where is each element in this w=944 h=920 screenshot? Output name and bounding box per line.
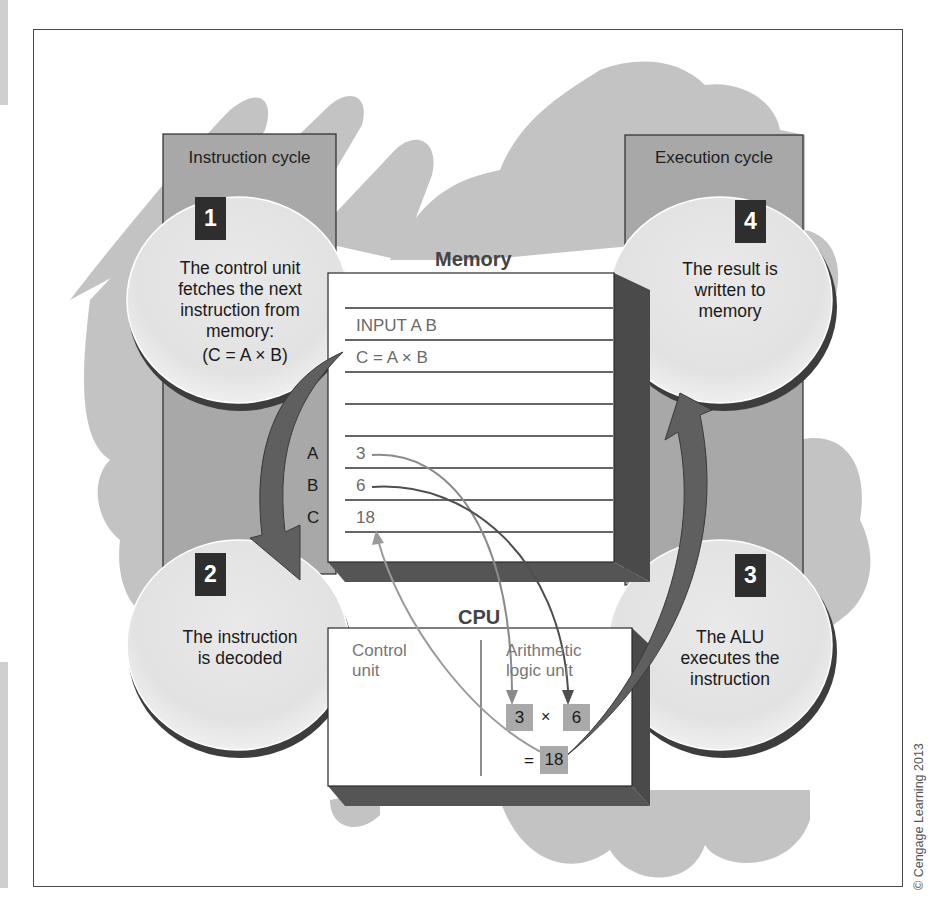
step-badge-4: 4 [735, 200, 766, 243]
instruction-cycle-label: Instruction cycle [163, 148, 336, 168]
execution-cycle-label: Execution cycle [625, 148, 803, 168]
step-4-description: The result is written to memory [640, 259, 820, 322]
step-3-description: The ALU executes the instruction [640, 627, 820, 690]
alu-operator: × [541, 708, 550, 726]
cpu-label: CPU [458, 606, 500, 629]
memory-label: Memory [435, 248, 512, 271]
address-label-a: A [307, 444, 318, 464]
memory-row-2: C = A × B [356, 348, 428, 368]
step-badge-2: 2 [195, 553, 226, 596]
alu-operand-b: 6 [563, 704, 590, 731]
copyright-notice: © Cengage Learning 2013 [912, 743, 926, 890]
step-badge-1: 1 [195, 197, 226, 240]
step-2-description: The instruction is decoded [140, 627, 340, 669]
alu-operand-a: 3 [506, 704, 533, 731]
step-1-description: The control unit fetches the next instru… [140, 258, 340, 366]
memory-row-a: 3 [356, 444, 365, 464]
diagram-graphics [0, 0, 944, 920]
alu-equals: = [524, 751, 534, 771]
memory-row-b: 6 [356, 476, 365, 496]
step-badge-3: 3 [735, 554, 766, 597]
memory-row-c: 18 [356, 508, 375, 528]
memory-row-1: INPUT A B [356, 316, 437, 336]
address-label-c: C [307, 508, 319, 528]
control-unit-label: Control unit [352, 641, 407, 681]
alu-label: Arithmetic logic unit [506, 641, 582, 681]
alu-result: 18 [540, 746, 568, 774]
address-label-b: B [307, 476, 318, 496]
